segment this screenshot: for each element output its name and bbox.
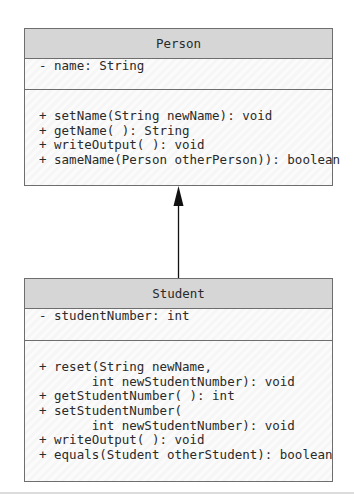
method: + reset(String newName,: [39, 360, 332, 375]
method: + equals(Student otherStudent): boolean: [39, 448, 332, 463]
method: + setStudentNumber(: [39, 404, 332, 419]
method: + writeOutput( ): void: [39, 433, 332, 448]
attribute: - studentNumber: int: [39, 309, 332, 324]
method-continuation: int newStudentNumber): void: [39, 375, 332, 390]
method-continuation: int newStudentNumber): void: [39, 419, 332, 434]
class-box-student: Student - studentNumber: int + reset(Str…: [24, 278, 333, 482]
page-divider: [0, 492, 354, 494]
attributes-section-student: - studentNumber: int: [25, 309, 332, 341]
methods-section-student: + reset(String newName, int newStudentNu…: [25, 341, 332, 463]
class-name-student: Student: [25, 279, 332, 309]
method: + getStudentNumber( ): int: [39, 389, 332, 404]
